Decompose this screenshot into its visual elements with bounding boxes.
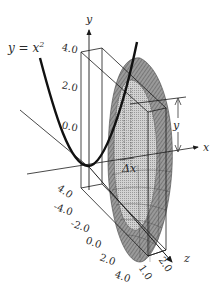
z-axis-label: z xyxy=(183,252,190,265)
radius-dimension: y xyxy=(172,98,183,152)
svg-text:2.0: 2.0 xyxy=(61,79,79,93)
svg-text:4.0: 4.0 xyxy=(61,41,79,55)
svg-text:0.0: 0.0 xyxy=(84,235,103,251)
equation-label: y = x2 xyxy=(7,40,44,55)
solid-of-revolution-figure: y x z y = x2 4.0 2.0 0.0 4.0 -4.0 -2.0 0… xyxy=(0,0,221,298)
svg-text:4.0: 4.0 xyxy=(113,269,132,285)
x-axis-label: x xyxy=(203,141,210,154)
svg-text:4.0: 4.0 xyxy=(55,182,74,200)
svg-text:2.0: 2.0 xyxy=(156,255,174,274)
svg-text:-4.0: -4.0 xyxy=(52,201,74,218)
svg-text:-2.0: -2.0 xyxy=(69,218,91,235)
y-axis-label: y xyxy=(85,13,93,26)
svg-text:Δx: Δx xyxy=(121,162,137,175)
svg-text:0.0: 0.0 xyxy=(61,119,79,133)
svg-text:2.0: 2.0 xyxy=(98,252,117,268)
z-axis-back xyxy=(20,110,90,168)
svg-text:y: y xyxy=(172,119,180,132)
svg-text:1.0: 1.0 xyxy=(136,263,154,282)
